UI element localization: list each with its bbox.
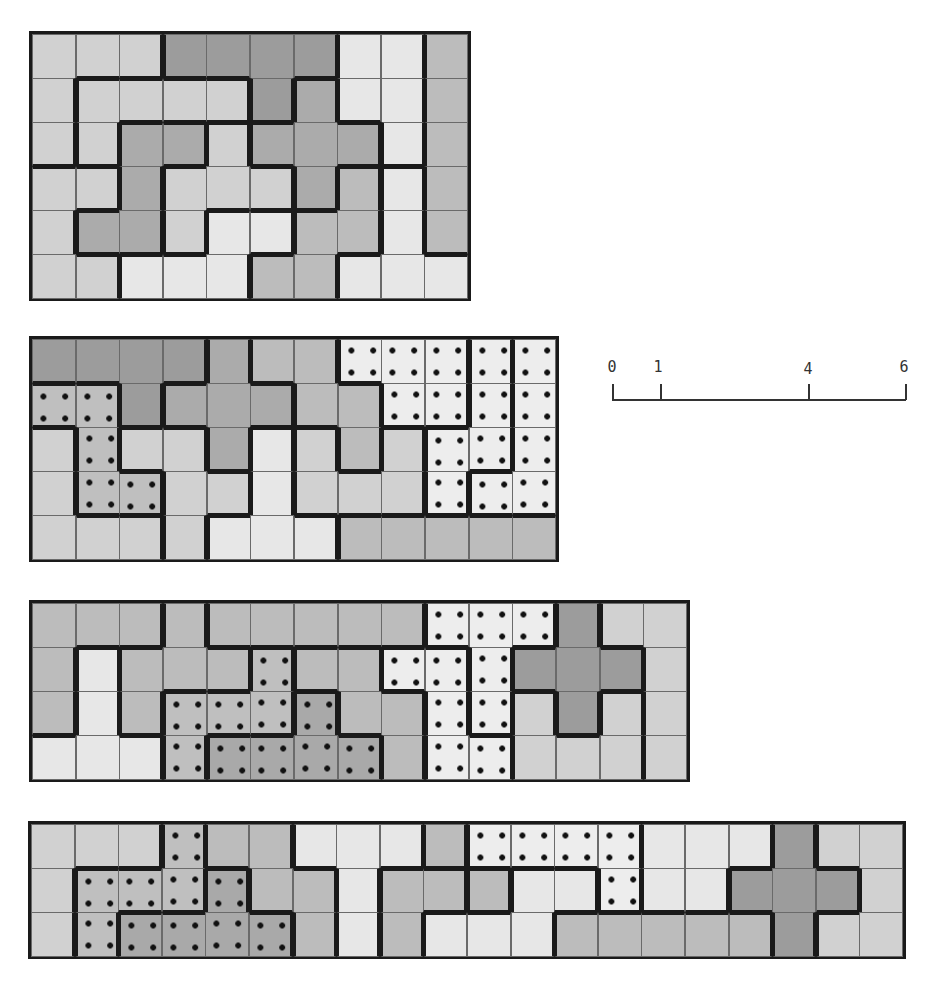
grid-cell xyxy=(600,735,644,780)
grid-cell xyxy=(119,471,163,516)
grid-cell xyxy=(816,824,860,869)
grid-cell xyxy=(76,78,120,123)
grid-cell xyxy=(32,735,76,780)
grid-cell xyxy=(32,471,76,516)
grid-cell xyxy=(207,735,251,780)
grid-cell xyxy=(859,912,903,957)
grid-cell xyxy=(423,868,467,913)
grid-cell xyxy=(425,427,469,472)
grid-cell xyxy=(119,166,163,211)
grid-cell xyxy=(380,912,424,957)
scale-tick-4 xyxy=(808,384,810,400)
grid-cell xyxy=(467,912,511,957)
grid-cell xyxy=(381,471,425,516)
grid-cell xyxy=(424,210,468,255)
grid-cell xyxy=(600,691,644,736)
grid-cell xyxy=(469,515,513,560)
grid-cell xyxy=(163,515,207,560)
grid-cell xyxy=(598,912,642,957)
grid-cell xyxy=(119,515,163,560)
grid-cell xyxy=(598,868,642,913)
grid-cell xyxy=(76,254,120,299)
grid-cell xyxy=(250,691,294,736)
grid-cell xyxy=(294,515,338,560)
grid-cell xyxy=(163,383,207,428)
pentomino-grid-10x6 xyxy=(29,31,471,301)
grid-cell xyxy=(294,339,338,384)
grid-cell xyxy=(338,603,382,648)
grid-cell xyxy=(32,383,76,428)
scale-label-1: 1 xyxy=(653,358,662,376)
grid-cell xyxy=(423,824,467,869)
grid-cell xyxy=(32,166,76,211)
grid-cell xyxy=(207,471,251,516)
grid-cell xyxy=(250,254,294,299)
grid-cell xyxy=(467,824,511,869)
grid-cell xyxy=(249,868,293,913)
grid-cell xyxy=(31,868,75,913)
grid-cell xyxy=(512,339,556,384)
grid-cell xyxy=(381,254,425,299)
grid-cell xyxy=(206,122,250,167)
grid-cell xyxy=(337,210,381,255)
grid-cell xyxy=(76,383,120,428)
grid-cell xyxy=(205,868,249,913)
scale-label-4: 4 xyxy=(803,360,812,378)
grid-cell xyxy=(119,34,163,79)
grid-cell xyxy=(641,868,685,913)
grid-cell xyxy=(425,647,469,692)
grid-cell xyxy=(119,122,163,167)
grid-cell xyxy=(469,647,513,692)
grid-cell xyxy=(32,603,76,648)
grid-cell xyxy=(512,471,556,516)
grid-cell xyxy=(381,166,425,211)
grid-cell xyxy=(423,912,467,957)
grid-cell xyxy=(293,912,337,957)
grid-cell xyxy=(556,735,600,780)
grid-cell xyxy=(207,383,251,428)
scale-tick-6 xyxy=(905,384,907,400)
grid-cell xyxy=(469,427,513,472)
grid-cell xyxy=(424,78,468,123)
scale-label-0: 0 xyxy=(607,358,616,376)
grid-cell xyxy=(118,912,162,957)
grid-cell xyxy=(469,339,513,384)
grid-cell xyxy=(772,824,816,869)
grid-cell xyxy=(338,427,382,472)
grid-cell xyxy=(31,824,75,869)
grid-cell xyxy=(163,34,207,79)
grid-cell xyxy=(294,471,338,516)
grid-cell xyxy=(336,868,380,913)
grid-cell xyxy=(554,912,598,957)
grid-cell xyxy=(424,122,468,167)
grid-cell xyxy=(859,868,903,913)
grid-cell xyxy=(119,603,163,648)
grid-cell xyxy=(425,691,469,736)
grid-cell xyxy=(163,122,207,167)
grid-cell xyxy=(556,691,600,736)
grid-cell xyxy=(250,78,294,123)
grid-cell xyxy=(556,603,600,648)
pentomino-grid-12x5 xyxy=(29,336,559,562)
grid-cell xyxy=(162,868,206,913)
grid-cell xyxy=(162,912,206,957)
grid-cell xyxy=(554,824,598,869)
grid-cell xyxy=(250,122,294,167)
grid-cell xyxy=(250,647,294,692)
grid-cell xyxy=(250,515,294,560)
grid-cell xyxy=(75,912,119,957)
grid-cell xyxy=(294,647,338,692)
grid-cell xyxy=(118,868,162,913)
grid-cell xyxy=(249,824,293,869)
grid-cell xyxy=(425,735,469,780)
grid-cell xyxy=(76,603,120,648)
grid-cell xyxy=(76,122,120,167)
grid-cell xyxy=(337,34,381,79)
grid-cell xyxy=(76,34,120,79)
grid-cell xyxy=(338,735,382,780)
scale-tick-1 xyxy=(660,384,662,400)
grid-cell xyxy=(381,122,425,167)
grid-cell xyxy=(512,647,556,692)
grid-cell xyxy=(512,735,556,780)
grid-cell xyxy=(425,515,469,560)
